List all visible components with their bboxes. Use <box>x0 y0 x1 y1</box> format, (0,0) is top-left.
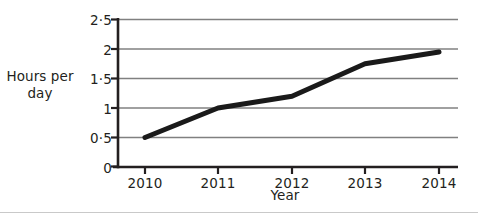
gridlines <box>118 20 458 138</box>
x-axis-title: Year <box>110 188 460 202</box>
page-bottom-rule <box>0 212 478 213</box>
line-chart-figure: Hours per day 2·5 2 1·5 1 0·5 0 <box>0 0 478 223</box>
data-series-line <box>145 52 439 138</box>
